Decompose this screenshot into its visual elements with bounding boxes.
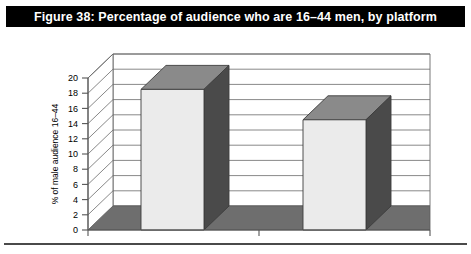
chart-container: 0 2 4 6 8 10 12 14 16 18 20 % of male au…: [0, 30, 471, 240]
x-tick-label-pay: Pay: [165, 239, 181, 240]
y-tick-label: 14: [68, 119, 78, 129]
bar-pay[interactable]: [141, 65, 229, 230]
page-title: Figure 38: Percentage of audience who ar…: [34, 10, 437, 24]
y-tick-label: 12: [68, 134, 78, 144]
bar-freeview-side: [366, 96, 391, 230]
footer-divider: [4, 243, 467, 245]
x-axis-ticks: [88, 230, 430, 236]
bar-pay-front: [141, 89, 204, 230]
y-axis-ticks: [82, 78, 88, 230]
y-tick-label: 8: [73, 164, 78, 174]
figure-title-banner: Figure 38: Percentage of audience who ar…: [6, 6, 465, 27]
y-tick-label: 0: [73, 225, 78, 235]
y-tick-label: 16: [68, 104, 78, 114]
x-tick-label-freeview: Freeview: [326, 239, 363, 240]
y-axis-tick-labels: 0 2 4 6 8 10 12 14 16 18 20: [68, 73, 78, 235]
y-tick-label: 2: [73, 210, 78, 220]
y-tick-label: 4: [73, 195, 78, 205]
y-tick-label: 20: [68, 73, 78, 83]
bar-chart-3d: 0 2 4 6 8 10 12 14 16 18 20 % of male au…: [0, 30, 471, 240]
bar-freeview[interactable]: [303, 96, 391, 230]
y-tick-label: 18: [68, 88, 78, 98]
y-tick-label: 6: [73, 180, 78, 190]
y-axis-title: % of male audience 16–44: [50, 103, 60, 204]
bar-freeview-front: [303, 120, 366, 230]
y-tick-label: 10: [68, 149, 78, 159]
bar-pay-side: [204, 65, 229, 230]
